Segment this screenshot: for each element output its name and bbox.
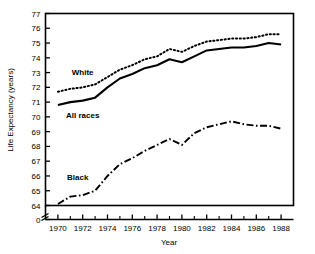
x-tick-label: 1984	[223, 224, 241, 233]
chart-canvas: 6465666768697071727374757677 19701972197…	[0, 0, 315, 254]
series-line-black	[58, 121, 281, 204]
series-label-all-races: All races	[66, 111, 100, 120]
y-tick-label: 77	[32, 10, 41, 19]
x-tick-label: 1974	[99, 224, 117, 233]
y-tick-label: 68	[32, 142, 41, 151]
y-tick-label: 67	[32, 157, 41, 166]
x-axis-tick-labels: 1970197219741976197819801982198419861988	[49, 224, 291, 233]
x-axis-title: Year	[161, 238, 178, 247]
x-tick-label: 1972	[74, 224, 92, 233]
x-tick-label: 1986	[247, 224, 265, 233]
y-tick-label: 74	[32, 54, 41, 63]
y-axis-title: Life Expectancy (years)	[6, 68, 15, 152]
series-label-black: Black	[67, 173, 89, 182]
x-tick-label: 1970	[49, 224, 67, 233]
y-tick-label: 66	[32, 172, 41, 181]
zero-tick-label: 0	[36, 216, 41, 225]
y-tick-label: 69	[32, 128, 41, 137]
x-tick-label: 1988	[272, 224, 290, 233]
y-tick-label: 73	[32, 69, 41, 78]
y-tick-label: 75	[32, 39, 41, 48]
x-tick-label: 1978	[148, 224, 166, 233]
series-label-white: White	[72, 68, 94, 77]
life-expectancy-chart: 6465666768697071727374757677 19701972197…	[0, 0, 315, 254]
y-axis-break-marker: 0	[36, 206, 293, 225]
y-tick-label: 65	[32, 187, 41, 196]
y-tick-label: 64	[32, 202, 41, 211]
y-axis-tick-labels: 6465666768697071727374757677	[32, 10, 41, 211]
y-tick-label: 76	[32, 24, 41, 33]
series-line-white	[58, 34, 281, 92]
y-tick-label: 71	[32, 98, 41, 107]
x-tick-label: 1980	[173, 224, 191, 233]
y-tick-label: 70	[32, 113, 41, 122]
y-tick-label: 72	[32, 83, 41, 92]
x-tick-label: 1982	[198, 224, 216, 233]
x-tick-label: 1976	[123, 224, 141, 233]
